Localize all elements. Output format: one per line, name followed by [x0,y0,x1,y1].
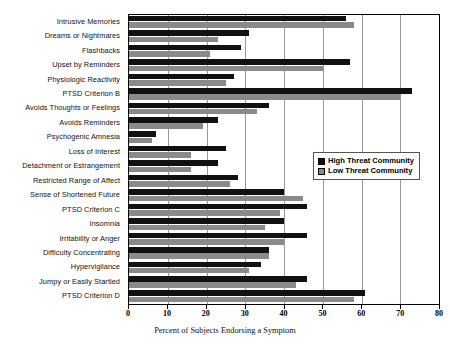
bar-low-threat [129,94,400,99]
legend-item-low-threat: Low Threat Community [318,166,414,176]
category-label: Sense of Shortened Future [0,187,124,201]
bar-row [129,102,439,116]
bar-row [129,275,439,289]
legend-item-high-threat: High Threat Community [318,156,414,166]
bar-row [129,246,439,260]
category-label: PTSD Criterion C [0,202,124,216]
legend-label: High Threat Community [328,156,414,166]
bar-low-threat [129,239,284,244]
category-axis-labels: Intrusive MemoriesDreams or NightmaresFl… [0,14,124,303]
x-tick-label: 70 [396,309,404,318]
category-label: PTSD Criterion D [0,289,124,303]
bar-high-threat [129,74,234,79]
legend-swatch-icon [318,158,325,165]
category-label: Detachment or Estrangement [0,159,124,173]
category-label: Upset by Reminders [0,57,124,71]
bar-row [129,116,439,130]
category-label: Psychogenic Amnesia [0,130,124,144]
bar-low-threat [129,181,230,186]
bar-high-threat [129,276,307,281]
category-label: Intrusive Memories [0,14,124,28]
x-tick-label: 80 [435,309,443,318]
category-label: Avoids Thoughts or Feelings [0,101,124,115]
bar-row [129,188,439,202]
bar-high-threat [129,16,346,21]
bar-row [129,131,439,145]
bar-high-threat [129,30,249,35]
bar-high-threat [129,117,218,122]
x-tick-label: 60 [357,309,365,318]
category-label: Physiologic Reactivity [0,72,124,86]
x-tick-label: 10 [163,309,171,318]
x-tick-label: 50 [318,309,326,318]
x-axis-ticks: 01020304050607080 [128,305,439,317]
bar-low-threat [129,152,191,157]
bar-low-threat [129,225,265,230]
category-label: Difficulty Concentrating [0,245,124,259]
bar-high-threat [129,59,350,64]
bar-low-threat [129,51,210,56]
x-tick-label: 30 [241,309,249,318]
bar-row [129,87,439,101]
legend-label: Low Threat Community [328,166,412,176]
bar-high-threat [129,189,284,194]
category-label: Dreams or Nightmares [0,28,124,42]
category-label: Restricted Range of Affect [0,173,124,187]
bar-low-threat [129,196,303,201]
category-label: Jumpy or Easily Startled [0,274,124,288]
bar-row [129,44,439,58]
bar-row [129,203,439,217]
bar-low-threat [129,123,203,128]
bar-high-threat [129,160,218,165]
bar-low-threat [129,210,280,215]
bar-high-threat [129,103,269,108]
bar-low-threat [129,282,296,287]
bar-high-threat [129,131,156,136]
bar-high-threat [129,233,307,238]
bar-low-threat [129,167,191,172]
category-label: Flashbacks [0,43,124,57]
bar-high-threat [129,204,307,209]
bar-row [129,58,439,72]
category-label: Loss of Interest [0,144,124,158]
bar-low-threat [129,80,226,85]
bar-high-threat [129,247,269,252]
bar-high-threat [129,218,284,223]
legend-swatch-icon [318,168,325,175]
bar-high-threat [129,45,241,50]
bar-low-threat [129,253,269,258]
bar-row [129,290,439,304]
chart-legend: High Threat Community Low Threat Communi… [313,152,420,180]
bar-high-threat [129,262,261,267]
category-label: Insomnia [0,216,124,230]
bar-low-threat [129,138,152,143]
bar-low-threat [129,66,323,71]
x-tick-label: 0 [126,309,130,318]
x-tick-label: 40 [280,309,288,318]
bar-high-threat [129,290,365,295]
bar-high-threat [129,175,238,180]
category-label: Avoids Reminders [0,115,124,129]
category-label: PTSD Criterion B [0,86,124,100]
bar-row [129,232,439,246]
bar-low-threat [129,268,249,273]
category-label: Irritability or Anger [0,231,124,245]
bar-high-threat [129,146,226,151]
bar-row [129,217,439,231]
bar-row [129,261,439,275]
bar-low-threat [129,297,354,302]
bar-high-threat [129,88,412,93]
bar-row [129,29,439,43]
bar-low-threat [129,109,257,114]
bar-chart: Intrusive MemoriesDreams or NightmaresFl… [0,0,450,349]
x-tick-label: 20 [202,309,210,318]
bar-row [129,73,439,87]
bar-low-threat [129,37,218,42]
category-label: Hypervigilance [0,260,124,274]
bar-low-threat [129,22,354,27]
bar-row [129,15,439,29]
x-axis-title: Percent of Subjects Endorsing a Symptom [0,326,450,335]
